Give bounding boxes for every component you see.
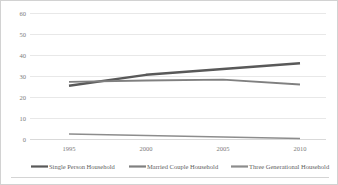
legend-label-single-person: Single Person Household (49, 163, 115, 170)
y-tick-label: 10 (20, 115, 27, 122)
x-tick-label: 1995 (63, 145, 76, 152)
y-tick-label: 0 (23, 136, 26, 143)
x-tick-label: 2005 (217, 145, 230, 152)
y-tick-label: 40 (20, 52, 27, 59)
x-axis-labels: 1995 2000 2005 2010 (63, 145, 307, 152)
y-tick-label: 50 (20, 31, 27, 38)
legend-label-three-generational: Three Generational Household (249, 163, 330, 170)
series-line-three-generational (69, 134, 300, 138)
data-series (69, 63, 300, 138)
y-axis-labels: 60 50 40 30 20 10 0 (20, 10, 27, 143)
y-tick-label: 20 (20, 94, 27, 101)
gridlines (30, 14, 326, 119)
x-tick-label: 2000 (140, 145, 153, 152)
chart-figure: 60 50 40 30 20 10 0 1995 2000 2005 2010 … (0, 0, 338, 185)
x-tick-label: 2010 (294, 145, 307, 152)
y-tick-label: 60 (20, 10, 27, 17)
legend-label-married-couple: Married Couple Household (147, 163, 219, 170)
line-chart: 60 50 40 30 20 10 0 1995 2000 2005 2010 … (1, 1, 338, 185)
y-tick-label: 30 (20, 73, 27, 80)
chart-legend: Single Person Household Married Couple H… (31, 163, 330, 170)
